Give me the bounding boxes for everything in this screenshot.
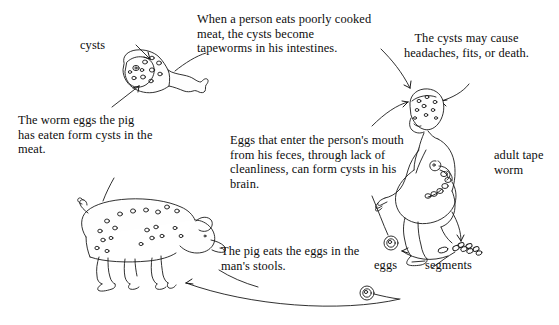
egg-lower: [360, 286, 374, 300]
label-segments: segments: [425, 258, 495, 273]
tapeworm-in-abdomen: [425, 161, 452, 198]
caption-eggs-mouth: Eggs that enter the person's mouth from …: [230, 133, 415, 191]
caption-meat-eaten: When a person eats poorly cooked meat, t…: [197, 12, 372, 56]
label-eggs: eggs: [374, 258, 416, 273]
arrow-symptoms-to-head: [441, 84, 469, 106]
arrow-lower-to-meat: [112, 86, 139, 107]
connector-person-to-egg-upper: [372, 196, 388, 235]
arrow-eggs-to-head: [372, 101, 408, 126]
egg-upper: [384, 236, 398, 250]
caption-cysts-symptoms: The cysts may cause headaches, fits, or …: [389, 31, 544, 60]
caption-worm-eggs-pig: The worm eggs the pig has eaten form cys…: [18, 113, 153, 157]
arrow-pig-to-meat: [103, 178, 114, 201]
meat-figure: [123, 50, 208, 93]
segments-figure: [438, 242, 483, 256]
label-cysts: cysts: [80, 38, 132, 53]
arrow-person-to-segments: [452, 212, 464, 241]
pig-figure: [78, 198, 226, 291]
connector-egg-lower-right: [374, 294, 399, 299]
label-adult-tape-worm: adult tape worm: [494, 148, 556, 177]
caption-pig-eats: The pig eats the eggs in the man's stool…: [221, 244, 381, 273]
tapeworm-life-cycle-diagram: When a person eats poorly cooked meat, t…: [0, 0, 559, 325]
